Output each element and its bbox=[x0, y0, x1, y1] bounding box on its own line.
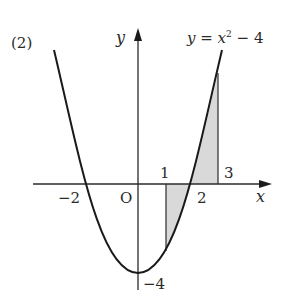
y-axis-arrow-icon bbox=[134, 28, 142, 41]
tick-label-neg4: −4 bbox=[143, 277, 165, 292]
tick-label-1: 1 bbox=[160, 166, 170, 181]
function-label: y = x2 − 4 bbox=[187, 30, 263, 46]
function-rest: − 4 bbox=[232, 29, 264, 47]
x-axis-label: x bbox=[256, 189, 265, 205]
tick-label-3: 3 bbox=[224, 166, 234, 181]
tick-label-neg2: −2 bbox=[58, 191, 80, 206]
y-axis-label: y bbox=[116, 30, 125, 46]
origin-label: O bbox=[120, 191, 132, 206]
tick-label-2: 2 bbox=[197, 191, 207, 206]
function-eq: = bbox=[195, 29, 217, 47]
problem-label: (2) bbox=[11, 36, 32, 51]
function-var: x bbox=[218, 29, 226, 47]
